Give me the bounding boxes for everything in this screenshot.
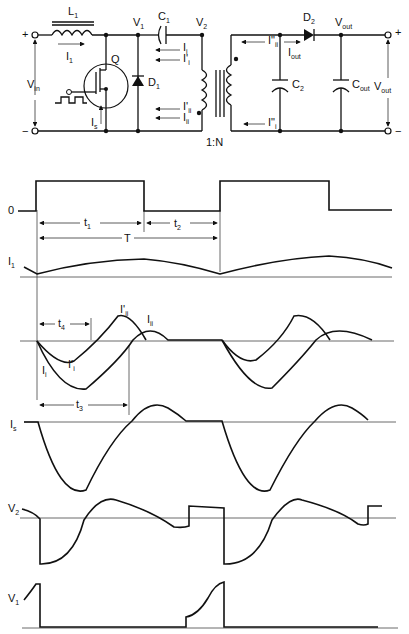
i1-label: I1 — [66, 50, 73, 64]
vin-minus-sign: − — [22, 125, 28, 137]
iii-double-prime-label: I"ii — [268, 34, 279, 48]
capacitor-c1 — [159, 26, 162, 44]
waveforms: 0 t1 t2 T I1 t4 t3 I'ii Iii I'i — [8, 181, 398, 628]
turns-ratio-label: 1:N — [206, 136, 223, 148]
vin-minus-terminal — [32, 128, 38, 134]
vout-minus-sign: − — [395, 125, 401, 137]
iii-waveform — [37, 331, 222, 389]
c1-label: C1 — [158, 10, 170, 24]
i1-waveform — [24, 256, 392, 274]
vout-minus-terminal — [385, 128, 391, 134]
t1-label: t1 — [84, 216, 91, 230]
diode-d1 — [132, 76, 144, 86]
t3-label: t3 — [76, 398, 83, 412]
vin-plus-terminal — [32, 32, 38, 38]
iout-label: Iout — [288, 46, 301, 60]
trace-label-i1: I1 — [8, 255, 15, 269]
d2-label: D2 — [303, 11, 315, 25]
t4-label: t4 — [58, 317, 65, 331]
trace-label-is: Is — [10, 418, 17, 432]
v1-waveform — [24, 582, 378, 627]
trace-label-v1: V1 — [8, 592, 19, 606]
trace-label-iii: Iii — [147, 313, 154, 327]
v1-node-label: V1 — [133, 16, 144, 30]
ii-double-prime-label: I"i — [268, 116, 277, 130]
q-label: Q — [111, 53, 120, 65]
vout-node-label: Vout — [335, 16, 352, 30]
vout-side-label: Vout — [374, 80, 391, 94]
converter-diagram: + − Vin L1 I1 Q Is — [0, 0, 409, 634]
trace-label-v2: V2 — [8, 502, 19, 516]
t2-label: t2 — [174, 217, 181, 231]
trace-label-iii-prime: I'ii — [120, 303, 129, 317]
gate-zero-label: 0 — [8, 204, 14, 216]
v2-waveform — [22, 499, 382, 564]
gate-waveform — [18, 181, 392, 211]
vout-plus-sign: + — [395, 26, 401, 38]
is-waveform — [24, 405, 368, 491]
period-label: T — [124, 232, 131, 244]
vin-label: Vin — [27, 78, 40, 92]
iii-prime-waveform-2 — [222, 316, 330, 361]
vin-plus-sign: + — [22, 28, 28, 40]
is-label: Is — [91, 116, 98, 130]
gate-pulse-icon — [55, 97, 87, 103]
transformer-secondary — [227, 65, 232, 105]
circuit-schematic: + − Vin L1 I1 Q Is — [22, 5, 401, 148]
transformer-primary — [202, 70, 207, 110]
c2-label: C2 — [292, 78, 304, 92]
l1-label: L1 — [68, 5, 78, 19]
diode-d2 — [304, 29, 314, 41]
inductor-l1 — [52, 31, 92, 36]
trace-label-ii: Ii — [42, 364, 47, 378]
d1-label: D1 — [148, 76, 160, 90]
v2-node-label: V2 — [196, 16, 207, 30]
ii-prime-label: I'i — [183, 52, 190, 66]
cout-label: Cout — [352, 78, 370, 92]
iii-prime-waveform — [37, 316, 146, 363]
vout-plus-terminal — [385, 32, 391, 38]
